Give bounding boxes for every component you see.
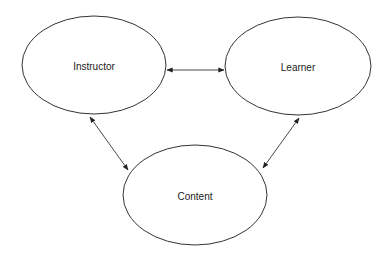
- node-learner-label: Learner: [281, 62, 316, 73]
- diagram-canvas: Instructor Learner Content: [0, 0, 384, 255]
- edge-instructor-content: [90, 117, 128, 170]
- node-content: Content: [123, 145, 267, 245]
- edge-learner-content: [263, 118, 299, 168]
- node-instructor-label: Instructor: [73, 61, 115, 72]
- diagram-svg: Instructor Learner Content: [0, 0, 384, 255]
- node-learner: Learner: [225, 17, 371, 115]
- node-instructor: Instructor: [22, 16, 166, 114]
- node-content-label: Content: [177, 191, 212, 202]
